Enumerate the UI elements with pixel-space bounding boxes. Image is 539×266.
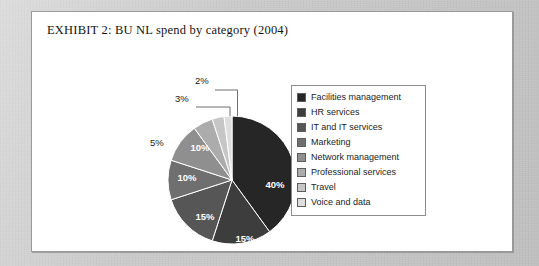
pie-callout-percentage-label: 2% — [195, 75, 209, 86]
leader-line-3pct — [196, 107, 230, 116]
legend-item-label: Travel — [311, 183, 336, 192]
legend-item[interactable]: Facilities management — [297, 90, 420, 105]
legend-color-swatch — [297, 138, 306, 147]
legend-item[interactable]: Marketing — [297, 135, 420, 150]
pie-slice-percentage-label: 10% — [177, 172, 197, 183]
pie-slice-percentage-label: 15% — [195, 211, 215, 222]
legend-item-label: HR services — [311, 108, 360, 117]
pie-slice-percentage-label: 40% — [265, 179, 285, 190]
exhibit-title: EXHIBIT 2: BU NL spend by category (2004… — [47, 23, 288, 38]
legend-color-swatch — [297, 123, 306, 132]
exhibit-card: EXHIBIT 2: BU NL spend by category (2004… — [31, 11, 513, 252]
legend-item[interactable]: IT and IT services — [297, 120, 420, 135]
pie-slice-percentage-label: 10% — [190, 142, 210, 153]
legend-color-swatch — [297, 198, 306, 207]
legend-item-label: IT and IT services — [311, 123, 382, 132]
legend-color-swatch — [297, 183, 306, 192]
legend-item[interactable]: Travel — [297, 180, 420, 195]
leader-line-2pct — [215, 90, 238, 116]
chart-legend: Facilities managementHR servicesIT and I… — [291, 85, 426, 216]
legend-color-swatch — [297, 153, 306, 162]
legend-item-label: Facilities management — [311, 93, 401, 102]
legend-item[interactable]: Network management — [297, 150, 420, 165]
legend-color-swatch — [297, 93, 306, 102]
pie-leader-lines — [196, 90, 238, 116]
legend-color-swatch — [297, 168, 306, 177]
legend-item-label: Network management — [311, 153, 399, 162]
pie-callout-percentage-label: 3% — [175, 93, 189, 104]
legend-item-label: Marketing — [311, 138, 351, 147]
legend-item-label: Voice and data — [311, 198, 371, 207]
legend-item[interactable]: Voice and data — [297, 195, 420, 210]
legend-color-swatch — [297, 108, 306, 117]
pie-slice-percentage-label: 15% — [235, 233, 255, 244]
pie-callout-percentage-label: 5% — [150, 137, 164, 148]
legend-item[interactable]: HR services — [297, 105, 420, 120]
legend-item-label: Professional services — [311, 168, 396, 177]
legend-item[interactable]: Professional services — [297, 165, 420, 180]
